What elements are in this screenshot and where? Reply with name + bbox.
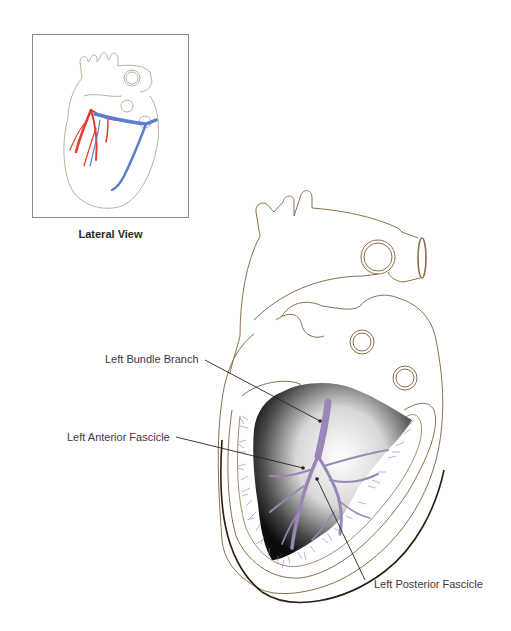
heart-diagram (0, 0, 511, 631)
label-left-posterior-fascicle: Left Posterior Fascicle (374, 578, 483, 590)
left-ventricle-cavity (253, 383, 412, 560)
label-left-bundle-branch: Left Bundle Branch (105, 353, 199, 365)
coronary-veins-icon (90, 114, 156, 190)
label-left-anterior-fascicle: Left Anterior Fascicle (67, 431, 170, 443)
inset-caption: Lateral View (32, 228, 189, 240)
